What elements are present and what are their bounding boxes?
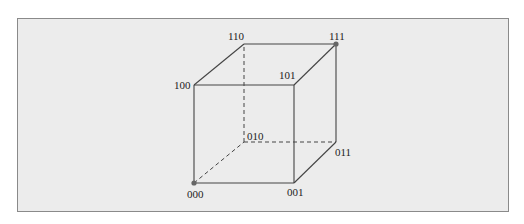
edge-001-011 xyxy=(294,142,336,183)
vertex-label-000: 000 xyxy=(187,188,204,200)
edge-100-110 xyxy=(194,44,244,85)
vertex-label-010: 010 xyxy=(247,130,264,142)
vertex-dot-111 xyxy=(333,41,338,46)
vertex-dot-000 xyxy=(191,180,196,185)
vertex-label-101: 101 xyxy=(279,69,296,81)
vertex-label-100: 100 xyxy=(174,79,191,91)
vertex-label-001: 001 xyxy=(287,186,304,198)
edge-101-111 xyxy=(294,44,336,85)
cube-diagram: 000 001 010 011 100 101 110 111 xyxy=(0,0,524,224)
vertex-label-011: 011 xyxy=(335,146,351,158)
vertex-label-110: 110 xyxy=(228,30,245,42)
edge-000-010 xyxy=(194,142,244,183)
vertex-label-111: 111 xyxy=(329,30,345,42)
